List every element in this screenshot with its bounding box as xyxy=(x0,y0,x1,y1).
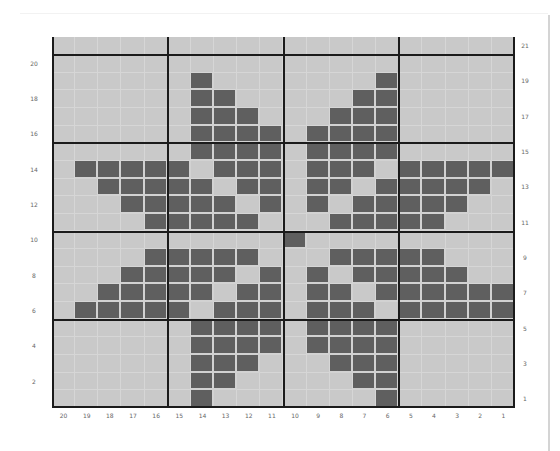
column-label: 19 xyxy=(79,412,95,420)
row-label-right: 3 xyxy=(517,360,533,368)
row-label-left: 10 xyxy=(26,236,42,244)
column-label: 5 xyxy=(403,412,419,420)
row-label-right: 5 xyxy=(517,325,533,333)
row-label-right: 19 xyxy=(517,77,533,85)
column-label: 3 xyxy=(449,412,465,420)
row-label-right: 21 xyxy=(517,42,533,50)
column-label: 2 xyxy=(472,412,488,420)
row-label-right: 11 xyxy=(517,219,533,227)
column-label: 4 xyxy=(426,412,442,420)
column-label: 20 xyxy=(56,412,72,420)
knitting-chart-grid xyxy=(52,37,515,408)
chart-frame xyxy=(52,37,515,408)
row-label-left: 8 xyxy=(26,272,42,280)
column-label: 18 xyxy=(102,412,118,420)
row-label-left: 2 xyxy=(26,378,42,386)
page-top-edge xyxy=(20,13,548,14)
row-label-right: 17 xyxy=(517,113,533,121)
row-label-right: 1 xyxy=(517,395,533,403)
row-label-right: 7 xyxy=(517,289,533,297)
column-label: 15 xyxy=(171,412,187,420)
row-label-right: 15 xyxy=(517,148,533,156)
column-label: 1 xyxy=(495,412,511,420)
column-label: 10 xyxy=(287,412,303,420)
page-right-edge xyxy=(548,15,550,451)
row-label-left: 14 xyxy=(26,166,42,174)
column-label: 9 xyxy=(310,412,326,420)
column-label: 13 xyxy=(218,412,234,420)
column-label: 8 xyxy=(333,412,349,420)
row-label-left: 12 xyxy=(26,201,42,209)
row-label-right: 13 xyxy=(517,183,533,191)
row-label-right: 9 xyxy=(517,254,533,262)
column-label: 12 xyxy=(241,412,257,420)
row-label-left: 6 xyxy=(26,307,42,315)
column-label: 16 xyxy=(148,412,164,420)
column-label: 17 xyxy=(125,412,141,420)
column-label: 14 xyxy=(194,412,210,420)
row-label-left: 20 xyxy=(26,60,42,68)
row-label-left: 16 xyxy=(26,130,42,138)
column-label: 7 xyxy=(357,412,373,420)
column-label: 6 xyxy=(380,412,396,420)
row-label-left: 4 xyxy=(26,342,42,350)
row-label-left: 18 xyxy=(26,95,42,103)
column-label: 11 xyxy=(264,412,280,420)
